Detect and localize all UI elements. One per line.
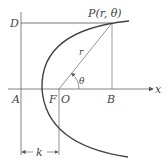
label-f: F	[48, 93, 57, 106]
label-d: D	[9, 17, 19, 30]
parabola-diagram: P(r, θ) D r θ A F O B x k	[0, 0, 167, 167]
label-a: A	[11, 93, 20, 106]
angle-arc	[72, 73, 80, 89]
label-x-axis: x	[155, 83, 162, 96]
label-b: B	[106, 93, 115, 106]
label-k: k	[36, 146, 43, 159]
label-o: O	[61, 93, 70, 106]
label-point-p: P(r, θ)	[87, 7, 122, 20]
radius-line	[59, 23, 112, 89]
label-theta: θ	[79, 76, 85, 86]
label-r: r	[79, 47, 84, 57]
